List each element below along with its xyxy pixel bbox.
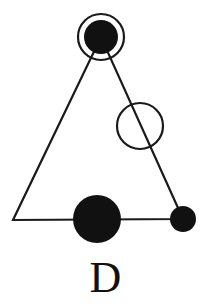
- apex-filled-circle: [84, 20, 118, 54]
- figure-page: { "figure": { "label": "D", "stroke_colo…: [0, 0, 211, 307]
- bottom-right-small-filled-circle: [170, 206, 196, 232]
- figure-label: D: [0, 255, 211, 301]
- bottom-large-filled-circle: [73, 195, 121, 243]
